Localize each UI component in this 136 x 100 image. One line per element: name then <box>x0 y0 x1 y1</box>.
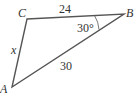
side-label-ab: 30 <box>60 59 72 73</box>
vertex-label-a: A <box>0 82 8 96</box>
triangle-abc <box>12 14 124 87</box>
angle-label-b: 30° <box>77 21 94 35</box>
angle-b-arc <box>95 16 100 30</box>
vertex-label-c: C <box>18 6 27 20</box>
vertex-label-b: B <box>126 6 134 20</box>
side-label-cb: 24 <box>59 2 71 16</box>
triangle-diagram: C B A 24 x 30 30° <box>0 0 136 100</box>
side-label-ca: x <box>10 43 17 57</box>
